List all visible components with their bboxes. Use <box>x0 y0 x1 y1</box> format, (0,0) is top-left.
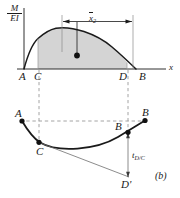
moment-area-figure: M EI x2 A C D B x A C B B D' tD/C (b) <box>0 0 180 198</box>
centroid-dot <box>74 53 80 59</box>
bottom-point-label-B: B <box>142 107 149 118</box>
figure-vector-graphics <box>0 0 180 198</box>
y-axis-numerator: M <box>7 4 22 13</box>
top-point-label-D: D <box>119 71 127 82</box>
bottom-point-label-D-prime: D' <box>121 179 131 190</box>
deviation-arrowhead-bottom <box>126 172 130 178</box>
top-point-label-A: A <box>19 71 26 82</box>
centroid-distance-label: x2 <box>89 13 96 24</box>
bottom-point-label-D: B <box>115 121 122 132</box>
x-axis-label: x <box>169 63 173 72</box>
node-dot-B <box>142 118 147 123</box>
bottom-point-label-A: A <box>15 108 22 119</box>
figure-caption-label: (b) <box>155 170 167 181</box>
tangential-deviation-label: tD/C <box>132 150 145 161</box>
dimension-arrowhead-right <box>126 19 133 23</box>
node-dot-D <box>125 130 130 135</box>
y-axis-label-moment-over-ei: M EI <box>7 4 22 24</box>
y-axis-denominator: EI <box>7 14 22 23</box>
top-point-label-C: C <box>34 71 41 82</box>
centroid-distance-subscript: 2 <box>93 18 96 24</box>
node-dot-A <box>19 118 24 123</box>
deviation-subscript: D/C <box>135 155 145 161</box>
top-point-label-B: B <box>139 71 146 82</box>
dimension-arrowhead-left <box>63 19 70 23</box>
bottom-point-label-C: C <box>36 146 43 157</box>
